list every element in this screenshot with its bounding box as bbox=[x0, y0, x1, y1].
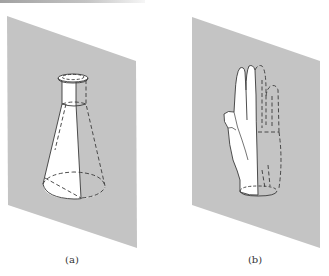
figure-canvas bbox=[0, 0, 329, 276]
caption-a: (a) bbox=[57, 254, 87, 265]
caption-b: (b) bbox=[240, 254, 270, 265]
panel-a bbox=[7, 16, 137, 248]
panel-b bbox=[192, 17, 320, 248]
